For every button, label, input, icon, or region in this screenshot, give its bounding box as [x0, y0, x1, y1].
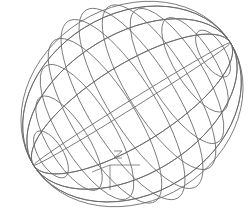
drawing-viewport[interactable] [0, 0, 251, 217]
meridian-curve [0, 0, 251, 217]
meridian-curve [0, 0, 251, 217]
meridian-curve [0, 0, 251, 217]
meridian-curves [0, 0, 251, 217]
latitude-ring [23, 52, 150, 212]
meridian-curve [0, 0, 251, 217]
wireframe-canvas [0, 0, 251, 217]
meridian-curve [0, 0, 251, 217]
